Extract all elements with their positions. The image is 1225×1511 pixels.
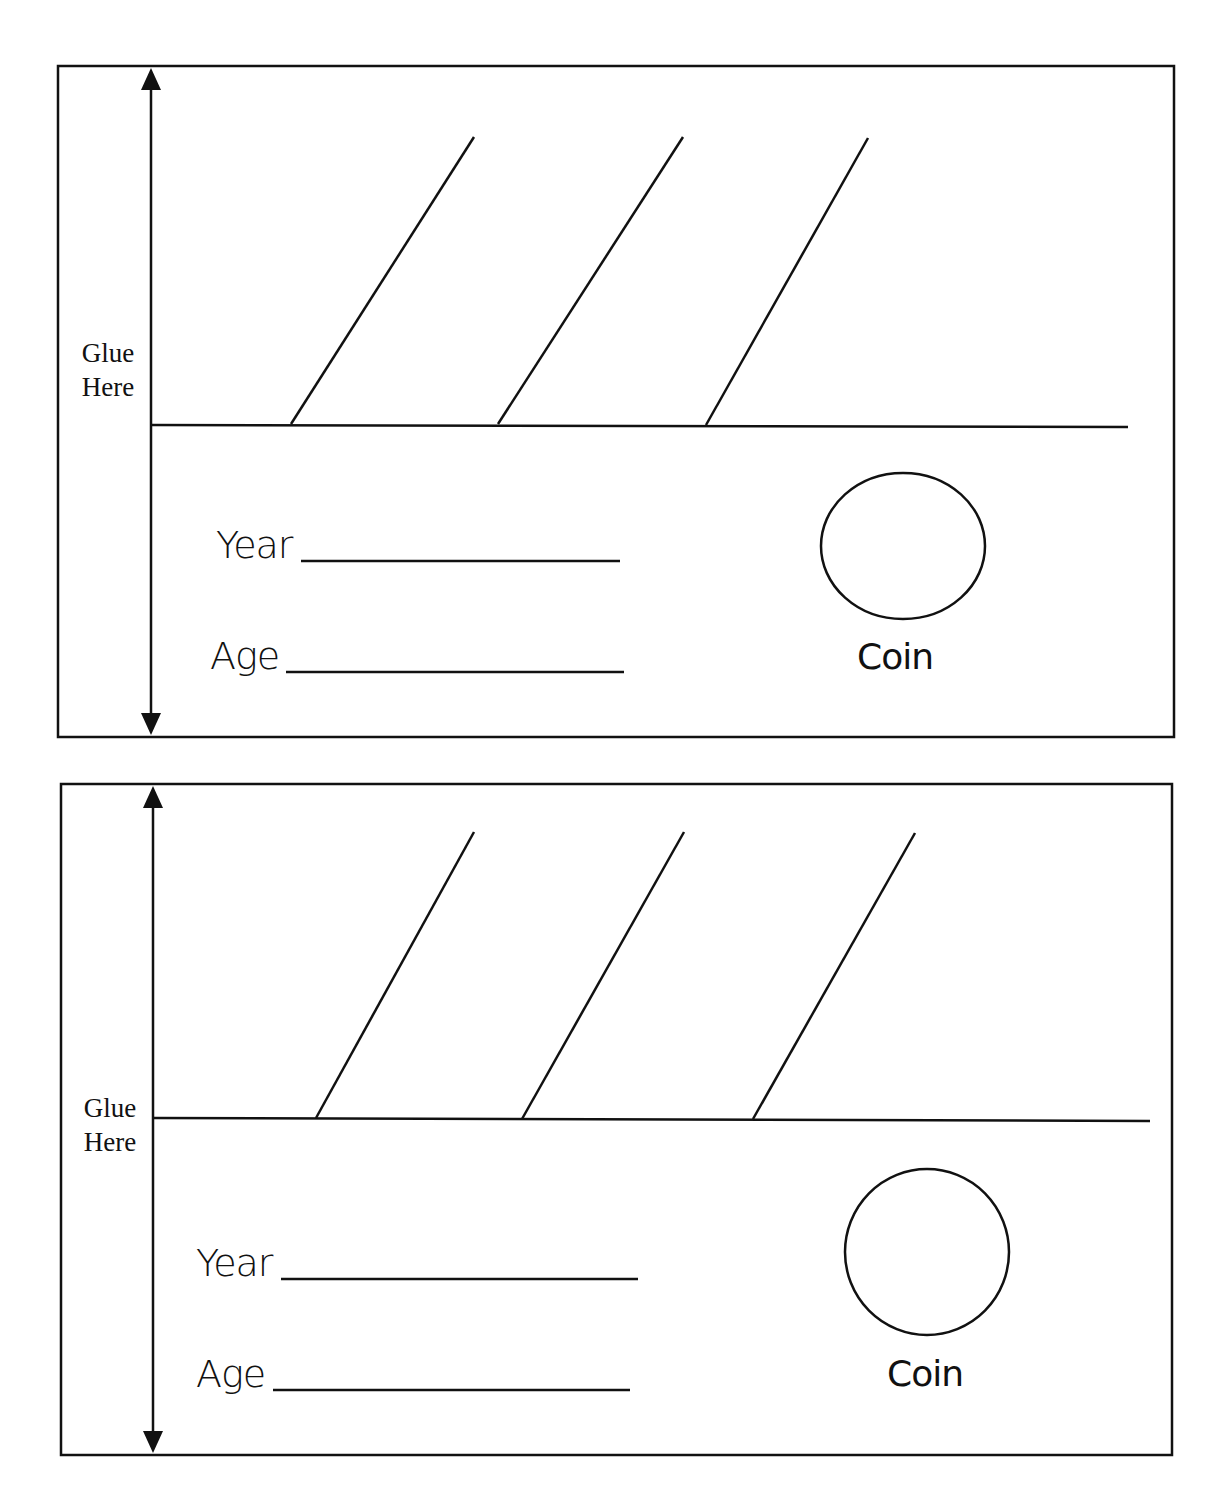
coin-card-2: Glue Here Year Age Coin [0,0,1225,1511]
coin-label: Coin [887,1354,963,1394]
flap-slash-3 [753,833,915,1119]
arrow-up-icon [143,786,163,808]
year-label: Year [196,1243,272,1283]
glue-here-label: Glue Here [70,1091,150,1159]
fold-line [153,1118,1150,1121]
arrow-down-icon [143,1431,163,1453]
flap-slash-1 [316,832,474,1118]
flap-slash-2 [522,832,684,1119]
coin-circle [845,1169,1009,1335]
age-label: Age [196,1354,265,1394]
card-2-drawing [0,0,1225,1511]
